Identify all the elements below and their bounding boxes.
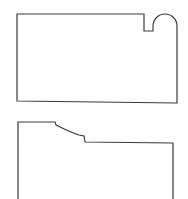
upper-part-profile: [17, 14, 177, 103]
technical-diagram: [0, 0, 188, 199]
lower-part-profile: [18, 122, 173, 199]
